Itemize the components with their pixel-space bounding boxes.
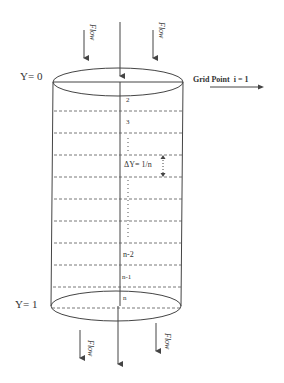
central-axis-arrow	[118, 22, 120, 364]
label-flow-top-right: Flow	[157, 22, 166, 38]
label-node-3: 3	[126, 118, 130, 126]
cylinder	[51, 68, 183, 321]
grid-lines	[53, 111, 183, 287]
label-flow-top-left: Flow	[88, 24, 97, 40]
label-grid-point: Grid Point i = 1	[193, 75, 248, 84]
label-flow-bottom-left: Flow	[86, 340, 95, 356]
label-delta-y: ΔY= 1/n	[124, 160, 152, 169]
label-y-top: Y= 0	[20, 70, 42, 82]
label-y-bottom: Y= 1	[15, 298, 37, 310]
grid-point-arrow	[210, 85, 264, 90]
label-node-n-1: n-1	[122, 273, 131, 281]
label-flow-bottom-right: Flow	[163, 333, 172, 349]
label-node-n-2: n-2	[123, 250, 134, 259]
cylinder-grid-diagram	[0, 0, 284, 383]
label-node-2: 2	[126, 96, 130, 104]
label-node-n: n	[123, 294, 127, 302]
delta-y-arrow	[161, 155, 166, 177]
